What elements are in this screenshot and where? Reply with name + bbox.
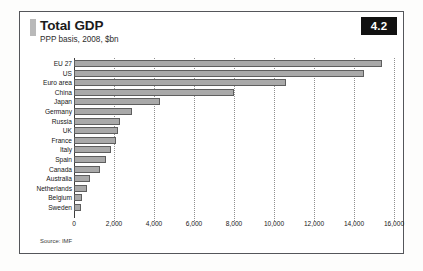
bar (74, 89, 234, 96)
x-tick-label: 0 (72, 220, 76, 227)
bar (74, 79, 286, 86)
gridline (394, 58, 395, 221)
x-tick-label: 6,000 (186, 220, 203, 227)
gridline (354, 58, 355, 221)
category-label: Sweden (48, 204, 72, 212)
category-label: Japan (54, 98, 72, 106)
x-tick-label: 14,000 (344, 220, 364, 227)
category-label: Germany (45, 108, 72, 116)
category-label: Russia (52, 118, 72, 126)
bar (74, 175, 90, 182)
x-tick-label: 12,000 (304, 220, 324, 227)
value-axis-ticks: 02,0004,0006,0008,00010,00012,00014,0001… (74, 218, 403, 234)
x-tick-label: 16,000 (384, 220, 404, 227)
category-label: UK (63, 127, 72, 135)
category-label: Belgium (48, 194, 72, 202)
bar (74, 60, 382, 67)
category-label: EU 27 (54, 60, 72, 68)
bar (74, 98, 160, 105)
bar (74, 146, 111, 153)
category-label: Netherlands (36, 185, 72, 193)
bar (74, 194, 82, 201)
bar (74, 127, 118, 134)
x-tick-label: 10,000 (264, 220, 284, 227)
category-label: China (55, 89, 72, 97)
category-label: Spain (55, 156, 72, 164)
title-accent-bar (30, 19, 36, 36)
bar (74, 166, 100, 173)
category-label: Australia (46, 175, 72, 183)
plot-area: EU 27USEuro areaChinaJapanGermanyRussiaU… (20, 58, 403, 218)
bars-container (74, 58, 403, 218)
screenshot-root: Total GDP PPP basis, 2008, $bn 4.2 EU 27… (0, 0, 423, 271)
category-label: Canada (49, 166, 72, 174)
category-label: Euro area (43, 79, 72, 87)
figure-number-badge: 4.2 (361, 17, 397, 35)
bar (74, 70, 364, 77)
chart-title: Total GDP (40, 18, 345, 33)
figure-header: Total GDP PPP basis, 2008, $bn (40, 18, 345, 45)
x-tick-label: 2,000 (106, 220, 123, 227)
bar (74, 137, 116, 144)
bar (74, 156, 106, 163)
bar (74, 185, 87, 192)
category-axis: EU 27USEuro areaChinaJapanGermanyRussiaU… (20, 58, 74, 218)
figure-card: Total GDP PPP basis, 2008, $bn 4.2 EU 27… (19, 11, 404, 254)
source-note: Source: IMF (40, 238, 72, 244)
chart-subtitle: PPP basis, 2008, $bn (40, 35, 345, 45)
category-label: France (51, 137, 72, 145)
x-tick-label: 4,000 (146, 220, 163, 227)
category-label: US (63, 70, 72, 78)
category-label: Italy (60, 146, 72, 154)
bar (74, 108, 132, 115)
gridline (314, 58, 315, 221)
bar (74, 118, 120, 125)
x-tick-label: 8,000 (226, 220, 243, 227)
bar (74, 204, 81, 211)
